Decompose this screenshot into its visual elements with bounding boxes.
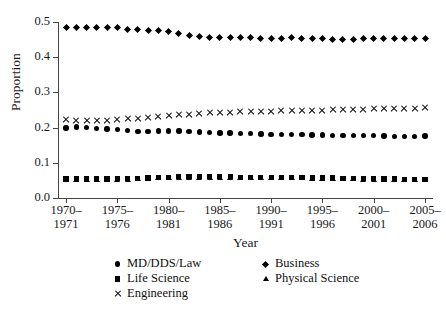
legend-row: Engineering: [112, 286, 412, 301]
data-point-diamond: [83, 24, 90, 31]
y-axis-tick-label: 0.2: [4, 121, 50, 133]
data-point-diamond: [175, 30, 182, 37]
x-axis-tick-label-line1: 1990–: [242, 204, 300, 218]
data-point-diamond: [257, 35, 264, 42]
legend-item-physical-science[interactable]: Physical Science: [260, 271, 359, 286]
x-axis-tick-label-line2: 1976: [88, 218, 146, 232]
chart-legend: MD/DDS/LawBusinessLife SciencePhysical S…: [112, 256, 412, 301]
data-point-diamond: [196, 33, 203, 40]
x-axis-tick-label-line2: 1981: [140, 218, 198, 232]
data-point-diamond: [268, 35, 275, 42]
x-axis-tick-label-line1: 1980–: [140, 204, 198, 218]
data-point-diamond: [134, 26, 141, 33]
data-point-diamond: [309, 35, 316, 42]
data-point-diamond: [288, 34, 295, 41]
data-point-diamond: [186, 32, 193, 39]
cross-marker-icon: [112, 288, 123, 299]
x-axis-tick-label-line2: 1971: [37, 218, 95, 232]
y-axis-tick-label: 0.5: [4, 15, 50, 27]
data-point-diamond: [411, 35, 418, 42]
x-axis-tick-label-line2: 2001: [345, 218, 403, 232]
data-point-diamond: [216, 34, 223, 41]
data-point-diamond: [370, 35, 377, 42]
data-point-diamond: [421, 35, 428, 42]
x-axis-tick-label-line2: 1996: [293, 218, 351, 232]
legend-label: Business: [275, 256, 319, 271]
y-axis-tick-labels: 0.00.10.20.30.40.5: [0, 0, 50, 318]
data-point-diamond: [391, 35, 398, 42]
x-axis-tick-label-line2: 1986: [191, 218, 249, 232]
x-axis-tick-label-line1: 2000–: [345, 204, 403, 218]
x-axis-tick-label: 1975–1976: [88, 204, 146, 231]
data-point-diamond: [73, 24, 80, 31]
data-point-diamond: [278, 35, 285, 42]
y-axis-tick-label: 0.1: [4, 156, 50, 168]
x-axis-tick-label-line2: 1991: [242, 218, 300, 232]
legend-item-engineering[interactable]: Engineering: [112, 286, 188, 301]
legend-item-md-dds-law[interactable]: MD/DDS/Law: [112, 256, 201, 271]
plot-area: [58, 22, 433, 198]
data-point-diamond: [114, 24, 121, 31]
y-axis-tick-label: 0.0: [4, 191, 50, 203]
legend-label: Life Science: [127, 271, 190, 286]
data-point-diamond: [298, 35, 305, 42]
data-point-diamond: [62, 24, 69, 31]
y-axis-tick-label: 0.3: [4, 85, 50, 97]
data-point-diamond: [227, 34, 234, 41]
x-axis-tick-label: 1970–1971: [37, 204, 95, 231]
data-point-diamond: [124, 26, 131, 33]
data-point-diamond: [339, 36, 346, 43]
x-axis-tick-label-line1: 2005–: [396, 204, 446, 218]
data-point-diamond: [247, 34, 254, 41]
x-axis-tick-label: 1980–1981: [140, 204, 198, 231]
legend-row: Life SciencePhysical Science: [112, 271, 412, 286]
x-axis-tick-label-line1: 1995–: [293, 204, 351, 218]
data-point-diamond: [93, 24, 100, 31]
data-point-diamond: [360, 35, 367, 42]
square-marker-icon: [112, 273, 123, 284]
x-axis-tick-label-line1: 1970–: [37, 204, 95, 218]
legend-item-life-science[interactable]: Life Science: [112, 271, 190, 286]
series-business: [58, 22, 433, 198]
data-point-diamond: [155, 27, 162, 34]
data-point-diamond: [401, 35, 408, 42]
legend-item-business[interactable]: Business: [260, 256, 319, 271]
data-point-diamond: [380, 35, 387, 42]
data-point-diamond: [237, 34, 244, 41]
x-axis-title: Year: [58, 235, 433, 251]
legend-row: MD/DDS/LawBusiness: [112, 256, 412, 271]
x-axis-tick-label-line1: 1975–: [88, 204, 146, 218]
x-axis-tick-label: 1985–1986: [191, 204, 249, 231]
x-axis-tick-label: 1990–1991: [242, 204, 300, 231]
x-axis-tick-label-line2: 2006: [396, 218, 446, 232]
y-axis-tick-label: 0.4: [4, 50, 50, 62]
data-point-diamond: [165, 28, 172, 35]
x-axis-tick-label: 1995–1996: [293, 204, 351, 231]
data-point-diamond: [319, 35, 326, 42]
data-point-diamond: [350, 36, 357, 43]
triangle-marker-icon: [260, 273, 271, 284]
data-point-diamond: [145, 27, 152, 34]
circle-marker-icon: [112, 258, 123, 269]
data-point-diamond: [206, 34, 213, 41]
legend-label: Engineering: [127, 286, 188, 301]
x-axis-tick-label: 2000–2001: [345, 204, 403, 231]
data-point-diamond: [329, 36, 336, 43]
legend-label: MD/DDS/Law: [127, 256, 201, 271]
x-axis-tick-label: 2005–2006: [396, 204, 446, 231]
x-axis-tick-label-line1: 1985–: [191, 204, 249, 218]
data-point-diamond: [103, 24, 110, 31]
diamond-marker-icon: [260, 258, 271, 269]
legend-label: Physical Science: [275, 271, 359, 286]
x-axis-line: [58, 198, 433, 199]
